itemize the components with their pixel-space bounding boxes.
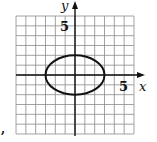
x-tick-label: 5 [119, 79, 128, 94]
coordinate-plot: y 5 5 x , [0, 0, 157, 142]
x-axis-arrow-icon [137, 72, 145, 78]
y-tick-label: 5 [60, 19, 69, 34]
y-axis-arrow-icon [72, 1, 78, 9]
y-axis-label: y [60, 0, 69, 13]
trailing-comma: , [1, 122, 5, 136]
x-axis-label: x [139, 79, 147, 94]
